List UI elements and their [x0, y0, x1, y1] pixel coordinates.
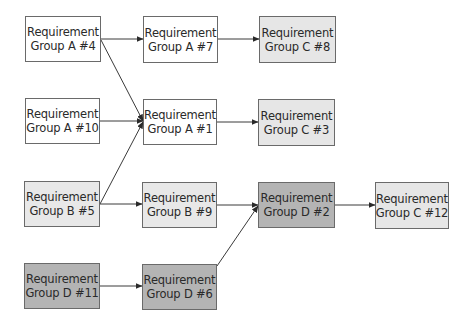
node-label-line1: Requirement	[144, 191, 216, 205]
node-group-d-d6: RequirementGroup D #6	[142, 264, 217, 310]
node-label-line2: Group A #4	[30, 39, 95, 53]
node-label-line1: Requirement	[261, 191, 333, 205]
node-group-a-a10: RequirementGroup A #10	[25, 98, 100, 144]
node-group-c-c8: RequirementGroup C #8	[259, 16, 336, 63]
node-label-line1: Requirement	[261, 109, 333, 123]
node-label-line2: Group C #12	[376, 206, 448, 220]
node-label-line2: Group D #11	[25, 286, 98, 300]
node-label-line1: Requirement	[27, 25, 99, 39]
arrow-edge-d6-to-d2	[217, 206, 258, 266]
node-label-line2: Group B #5	[29, 204, 94, 218]
node-label-line2: Group A #10	[26, 121, 98, 135]
node-group-b-b5: RequirementGroup B #5	[24, 181, 100, 227]
arrow-edge-b5-to-a1	[100, 122, 143, 204]
node-label-line1: Requirement	[27, 107, 99, 121]
node-label-line1: Requirement	[262, 26, 334, 40]
node-group-a-a4: RequirementGroup A #4	[25, 16, 101, 62]
node-group-b-b9: RequirementGroup B #9	[142, 182, 217, 228]
node-group-d-d2: RequirementGroup D #2	[258, 182, 335, 228]
node-label-line1: Requirement	[144, 273, 216, 287]
node-group-c-c12: RequirementGroup C #12	[375, 182, 449, 229]
node-label-line1: Requirement	[145, 26, 217, 40]
node-label-line2: Group D #2	[263, 205, 329, 219]
node-label-line1: Requirement	[26, 272, 98, 286]
node-label-line2: Group D #6	[146, 287, 212, 301]
node-label-line2: Group A #7	[148, 40, 213, 54]
diagram-canvas: RequirementGroup A #4RequirementGroup A …	[0, 0, 472, 330]
arrow-edge-a4-to-a1	[101, 40, 143, 121]
node-label-line1: Requirement	[376, 192, 448, 206]
node-label-line2: Group B #9	[147, 205, 212, 219]
node-label-line1: Requirement	[26, 190, 98, 204]
node-group-a-a7: RequirementGroup A #7	[143, 16, 218, 63]
node-label-line2: Group C #3	[264, 123, 329, 137]
node-label-line2: Group A #1	[147, 122, 212, 136]
node-group-a-a1: RequirementGroup A #1	[143, 99, 217, 145]
node-group-c-c3: RequirementGroup C #3	[258, 99, 335, 146]
node-label-line2: Group C #8	[265, 40, 330, 54]
node-group-d-d11: RequirementGroup D #11	[24, 263, 100, 309]
node-label-line1: Requirement	[144, 108, 216, 122]
